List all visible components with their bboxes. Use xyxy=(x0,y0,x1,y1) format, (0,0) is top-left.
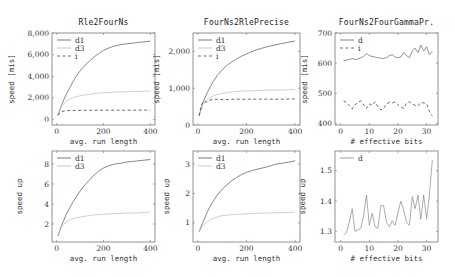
y-axis-label: speed up xyxy=(162,178,171,215)
x-axis-label: # effective bits xyxy=(350,254,422,263)
plot-frame xyxy=(52,33,155,125)
subplot-p11: 0200400123avg. run lengthspeed upd1d3 xyxy=(162,151,303,263)
y-tick-label: 2 xyxy=(44,220,49,229)
y-axis-label: speed [mis] xyxy=(7,54,16,104)
series-d1 xyxy=(58,160,150,237)
y-tick-label: 8,000 xyxy=(28,29,50,38)
x-tick-label: 30 xyxy=(422,127,432,136)
y-axis-label: speed [mis] xyxy=(152,54,161,104)
x-tick-label: 400 xyxy=(143,127,158,136)
y-tick-label: 2 xyxy=(185,189,190,198)
chart-title: FourNs2RlePrecise xyxy=(204,18,289,27)
series-d3 xyxy=(199,212,295,232)
y-tick-label: 2,000 xyxy=(169,47,191,56)
x-tick-label: 0 xyxy=(338,127,343,136)
x-tick-label: 0 xyxy=(338,244,343,253)
subplot-p10: 02004002468avg. run lengthspeed upd1d3 xyxy=(15,151,158,263)
series-d1 xyxy=(199,41,295,116)
x-tick-label: 30 xyxy=(422,244,432,253)
series-d xyxy=(344,160,433,234)
plot-frame xyxy=(335,151,438,242)
legend-label: i xyxy=(358,44,361,53)
x-axis-label: avg. run length xyxy=(70,254,138,263)
subplot-p02: FourNs2FourGammaPr.0102030400500600700# … xyxy=(300,18,438,146)
subplot-p00: Rle2FourNs020040002,0004,0006,0008,000av… xyxy=(7,18,158,146)
x-tick-label: 10 xyxy=(365,244,375,253)
plot-frame xyxy=(193,33,300,125)
series-d3 xyxy=(199,89,295,116)
y-axis-label: speed up xyxy=(15,178,24,215)
legend: d1d3 xyxy=(57,154,85,171)
x-tick-label: 400 xyxy=(288,127,303,136)
y-tick-label: 6 xyxy=(44,180,49,189)
x-tick-label: 0 xyxy=(195,244,200,253)
y-tick-label: 400 xyxy=(318,119,333,128)
legend: d1d3i xyxy=(198,36,226,61)
y-tick-label: 1 xyxy=(185,218,190,227)
legend: d1d3 xyxy=(198,154,226,171)
x-axis-label: avg. run length xyxy=(213,137,281,146)
series-d3 xyxy=(58,91,150,115)
y-axis-label: speed up xyxy=(298,178,307,215)
y-tick-label: 4 xyxy=(44,200,49,209)
legend-label: i xyxy=(75,52,78,61)
y-tick-label: 1.5 xyxy=(320,166,332,175)
y-tick-label: 3 xyxy=(185,160,190,169)
x-axis-label: # effective bits xyxy=(350,137,422,146)
y-axis-label: speed [mis] xyxy=(300,54,309,104)
series-i xyxy=(58,110,150,115)
legend: d1d3i xyxy=(57,36,85,61)
x-tick-label: 20 xyxy=(393,244,403,253)
subplot-p12: 01020301.31.41.5# effective bitsspeed up… xyxy=(298,151,438,263)
series-d1 xyxy=(199,161,295,232)
series-d3 xyxy=(58,212,150,236)
x-tick-label: 0 xyxy=(195,127,200,136)
plot-frame xyxy=(193,151,300,242)
x-tick-label: 200 xyxy=(239,127,254,136)
x-tick-label: 10 xyxy=(365,127,375,136)
y-tick-label: 500 xyxy=(318,89,333,98)
chart-canvas: Rle2FourNs020040002,0004,0006,0008,000av… xyxy=(0,0,455,277)
chart-title: FourNs2FourGammaPr. xyxy=(339,18,434,27)
x-tick-label: 400 xyxy=(143,244,158,253)
y-tick-label: 6,000 xyxy=(28,50,50,59)
x-tick-label: 200 xyxy=(239,244,254,253)
x-axis-label: avg. run length xyxy=(213,254,281,263)
legend-label: i xyxy=(216,52,219,61)
y-tick-label: 700 xyxy=(318,29,333,38)
x-tick-label: 200 xyxy=(96,244,111,253)
legend-label: d3 xyxy=(216,162,226,171)
legend: d xyxy=(340,154,363,163)
subplot-p01: FourNs2RlePrecise020040001,0002,000avg. … xyxy=(152,18,303,146)
x-tick-label: 0 xyxy=(54,244,59,253)
y-tick-label: 2,000 xyxy=(28,93,50,102)
y-tick-label: 4,000 xyxy=(28,72,50,81)
series-i xyxy=(199,99,295,116)
y-tick-label: 8 xyxy=(44,160,49,169)
y-tick-label: 1.3 xyxy=(320,227,332,236)
plot-frame xyxy=(335,33,438,125)
x-tick-label: 400 xyxy=(288,244,303,253)
y-tick-label: 0 xyxy=(44,115,49,124)
legend-label: d xyxy=(358,154,363,163)
x-tick-label: 200 xyxy=(96,127,111,136)
legend: di xyxy=(340,36,363,53)
series-d1 xyxy=(58,41,150,115)
x-tick-label: 0 xyxy=(54,127,59,136)
legend-label: d3 xyxy=(75,162,85,171)
series-i xyxy=(344,101,433,116)
y-tick-label: 1,000 xyxy=(169,84,191,93)
x-axis-label: avg. run length xyxy=(70,137,138,146)
y-tick-label: 0 xyxy=(185,121,190,130)
x-tick-label: 20 xyxy=(393,127,403,136)
series-d xyxy=(344,45,433,61)
y-tick-label: 1.4 xyxy=(320,197,332,206)
y-tick-label: 600 xyxy=(318,59,333,68)
plot-frame xyxy=(52,151,155,242)
chart-title: Rle2FourNs xyxy=(78,18,128,27)
